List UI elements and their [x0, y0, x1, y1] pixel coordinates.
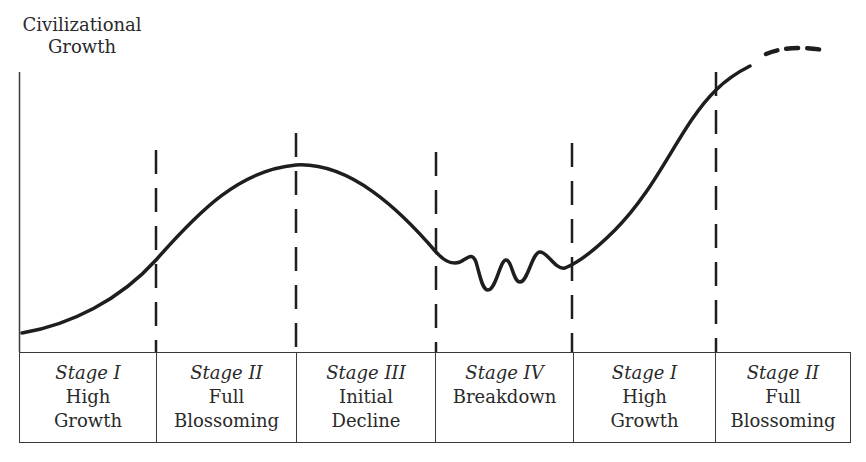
- stage-desc-line1: Full: [765, 385, 801, 409]
- stage-desc-line2: Blossoming: [174, 409, 279, 433]
- stage-cell: Stage II Full Blossoming: [157, 353, 297, 442]
- stage-desc-line1: High: [66, 385, 111, 409]
- stage-name: Stage III: [326, 361, 406, 385]
- stage-cell: Stage III Initial Decline: [297, 353, 436, 442]
- stage-desc-line1: Breakdown: [453, 385, 556, 409]
- stage-name: Stage I: [55, 361, 120, 385]
- stage-desc-line2: Growth: [54, 409, 122, 433]
- growth-curve: [22, 66, 750, 333]
- stage-desc-line1: Initial: [339, 385, 393, 409]
- stage-desc-line2: Decline: [332, 409, 401, 433]
- stage-desc-line1: Full: [209, 385, 245, 409]
- stage-cell: Stage I High Growth: [574, 353, 716, 442]
- stage-name: Stage IV: [465, 361, 543, 385]
- stage-desc-line1: High: [622, 385, 667, 409]
- stage-cell: Stage IV Breakdown: [436, 353, 574, 442]
- stage-name: Stage II: [747, 361, 819, 385]
- projected-curve: [766, 48, 823, 54]
- stage-name: Stage II: [190, 361, 262, 385]
- stage-desc-line2: Blossoming: [730, 409, 835, 433]
- stage-cell: Stage I High Growth: [20, 353, 157, 442]
- stage-name: Stage I: [612, 361, 677, 385]
- stage-desc-line2: Growth: [610, 409, 678, 433]
- stage-cell: Stage II Full Blossoming: [716, 353, 850, 442]
- stage-table: Stage I High Growth Stage II Full Blosso…: [19, 352, 851, 443]
